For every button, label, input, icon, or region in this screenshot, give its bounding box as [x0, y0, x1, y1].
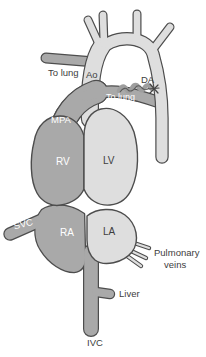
- label-ra: RA: [60, 227, 74, 238]
- label-to-lung-left: To lung: [48, 67, 79, 78]
- label-mpa: MPA: [51, 114, 72, 125]
- liver-vessel: [96, 292, 110, 294]
- label-pulmonary-veins-line1: Pulmonary: [154, 247, 200, 258]
- label-rv: RV: [56, 156, 70, 167]
- label-pulmonary-veins-line2: veins: [164, 259, 186, 270]
- label-la: LA: [103, 226, 116, 237]
- arch-branch-2: [103, 15, 104, 44]
- pulmonary-vein-3: [127, 256, 141, 266]
- heart-circulation-diagram: To lung Ao DA To lung MPA RV LV SVC RA L…: [0, 0, 206, 357]
- right-atrium: [35, 205, 85, 272]
- arch-branch-1: [88, 20, 98, 42]
- label-ivc: IVC: [87, 337, 103, 348]
- label-to-lung-right: To lung: [106, 92, 135, 102]
- label-da: DA: [141, 74, 155, 85]
- label-liver: Liver: [119, 288, 140, 299]
- figure-canvas: To lung Ao DA To lung MPA RV LV SVC RA L…: [0, 0, 206, 357]
- label-lv: LV: [103, 155, 115, 166]
- label-ao: Ao: [86, 69, 98, 80]
